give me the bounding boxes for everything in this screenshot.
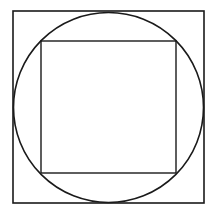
figure-canvas: Nested geometric figure: square, inscrib…: [0, 0, 217, 217]
geometric-figure-svg: Nested geometric figure: square, inscrib…: [0, 0, 217, 217]
inner-square-shape: [41, 41, 176, 173]
